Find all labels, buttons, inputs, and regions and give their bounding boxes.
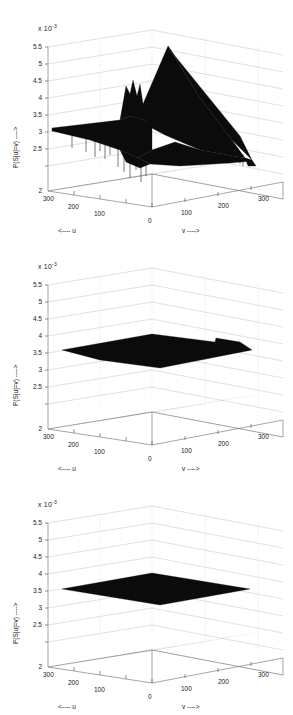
z-tick-label: 3.5 — [33, 349, 42, 356]
z-tick-label: 3.5 — [33, 587, 42, 594]
u-tick-label: 200 — [68, 441, 79, 448]
exponent-power-2: -3 — [52, 261, 57, 267]
u-tick-labels-2: 300 200 100 0 — [43, 433, 152, 462]
u-tick-label: 0 — [148, 693, 152, 700]
z-tick-labels-1: 5.5 5 4.5 4 3.5 3 2.5 2 — [33, 43, 42, 194]
z-tick-label: 5.5 — [33, 281, 42, 288]
v-tick-label: 200 — [218, 678, 229, 685]
z-tick-label: 3 — [38, 366, 42, 373]
plot-panel-2: x 10-3 P(S|u|=v) ----> <---- u v ----> — [0, 238, 293, 476]
surface-mesh-3 — [62, 573, 250, 605]
v-axis-title-3: v ----> — [182, 703, 200, 710]
z-tick-label: 4 — [38, 94, 42, 101]
z-tick-label: 2 — [38, 663, 42, 670]
v-tick-label: 300 — [258, 671, 269, 678]
v-tick-label: 200 — [218, 440, 229, 447]
z-tick-labels-2: 5.5 5 4.5 4 3.5 3 2.5 2 — [33, 281, 42, 432]
z-tick-label: 2 — [38, 187, 42, 194]
z-tick-label: 3.5 — [33, 111, 42, 118]
plot-panel-1: x 10-3 P(S|u|=v) ----> <---- u v ----> — [0, 0, 293, 238]
exponent-label-2: x 10-3 — [38, 261, 57, 270]
exponent-power-3: -3 — [52, 499, 57, 505]
y-axis-title-2: P(S|u|=v) ----> — [12, 365, 19, 406]
u-tick-labels-3: 300 200 100 0 — [43, 671, 152, 700]
u-axis-title-3: <---- u — [58, 703, 76, 710]
u-axis-title-2: <---- u — [58, 465, 76, 472]
plot-canvas-3: 5.5 5 4.5 4 3.5 3 2.5 2 300 200 100 0 10… — [0, 476, 293, 714]
v-tick-label: 200 — [218, 202, 229, 209]
u-tick-label: 100 — [94, 686, 105, 693]
v-tick-label: 300 — [258, 433, 269, 440]
z-tick-label: 5 — [38, 536, 42, 543]
z-tick-label: 3 — [38, 604, 42, 611]
z-tick-label: 4.5 — [33, 553, 42, 560]
exponent-label-1: x 10-3 — [38, 23, 57, 32]
v-tick-label: 100 — [181, 685, 192, 692]
plot-panel-3: x 10-3 P(S|u|=v) ----> <---- u v ----> — [0, 476, 293, 714]
z-tick-labels-3: 5.5 5 4.5 4 3.5 3 2.5 2 — [33, 519, 42, 670]
z-tick-label: 3 — [38, 128, 42, 135]
u-tick-label: 100 — [94, 448, 105, 455]
u-tick-label: 300 — [43, 671, 54, 678]
v-tick-labels-1: 100 200 300 — [181, 195, 269, 216]
z-tick-label: 2.5 — [33, 145, 42, 152]
z-tick-label: 4.5 — [33, 315, 42, 322]
u-tick-label: 0 — [148, 217, 152, 224]
v-tick-label: 300 — [258, 195, 269, 202]
z-tick-label: 2 — [38, 425, 42, 432]
z-tick-label: 4 — [38, 332, 42, 339]
z-tick-label: 2.5 — [33, 621, 42, 628]
u-tick-label: 300 — [43, 195, 54, 202]
z-tick-label: 5 — [38, 298, 42, 305]
u-tick-label: 200 — [68, 203, 79, 210]
figure-three-panel-3d-plots: x 10-3 P(S|u|=v) ----> <---- u v ----> — [0, 0, 293, 715]
v-axis-title-2: v ----> — [182, 465, 200, 472]
u-tick-label: 300 — [43, 433, 54, 440]
y-axis-title-1: P(S|u|=v) ----> — [12, 127, 19, 168]
exponent-label-3: x 10-3 — [38, 499, 57, 508]
surface-mesh-1 — [52, 46, 256, 182]
z-tick-label: 4 — [38, 570, 42, 577]
z-tick-label: 5.5 — [33, 519, 42, 526]
z-tick-label: 2.5 — [33, 383, 42, 390]
exponent-power-1: -3 — [52, 23, 57, 29]
v-tick-label: 100 — [181, 209, 192, 216]
plot-canvas-2: 5.5 5 4.5 4 3.5 3 2.5 2 300 200 100 0 10… — [0, 238, 293, 476]
z-tick-label: 4.5 — [33, 77, 42, 84]
u-tick-label: 100 — [94, 210, 105, 217]
v-tick-labels-3: 100 200 300 — [181, 671, 269, 692]
u-tick-label: 200 — [68, 679, 79, 686]
y-axis-title-3: P(S|u|=v) ----> — [12, 603, 19, 644]
u-tick-label: 0 — [148, 455, 152, 462]
u-tick-labels-1: 300 200 100 0 — [43, 195, 152, 224]
z-tick-label: 5 — [38, 60, 42, 67]
v-tick-label: 100 — [181, 447, 192, 454]
v-tick-labels-2: 100 200 300 — [181, 433, 269, 454]
plot-canvas-1: 5.5 5 4.5 4 3.5 3 2.5 2 300 200 100 0 10… — [0, 0, 293, 238]
v-axis-title-1: v ----> — [182, 227, 200, 234]
z-tick-label: 5.5 — [33, 43, 42, 50]
u-axis-title-1: <---- u — [58, 227, 76, 234]
